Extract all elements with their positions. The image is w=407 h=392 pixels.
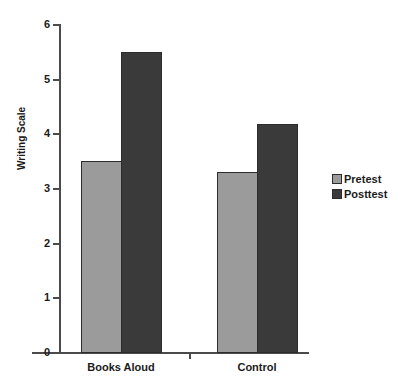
legend-swatch-icon-posttest <box>332 189 342 199</box>
legend-label-posttest: Posttest <box>344 189 387 200</box>
y-tick-label-1: 1 <box>36 292 50 303</box>
y-tick-3 <box>53 188 60 190</box>
y-tick-5 <box>53 79 60 81</box>
x-tick-separator <box>189 353 191 359</box>
y-tick-1 <box>53 297 60 299</box>
y-tick-2 <box>53 243 60 245</box>
y-tick-6 <box>53 24 60 26</box>
y-tick-label-4: 4 <box>36 128 50 139</box>
bar-control-posttest[interactable] <box>257 124 298 353</box>
y-tick-label-0: 0 <box>36 347 50 358</box>
legend: Pretest Posttest <box>332 172 387 202</box>
y-tick-label-3: 3 <box>36 183 50 194</box>
legend-swatch-icon-pretest <box>332 174 342 184</box>
x-category-label-control: Control <box>197 361 317 373</box>
y-tick-4 <box>53 133 60 135</box>
y-tick-0 <box>53 352 60 354</box>
y-tick-label-2: 2 <box>36 238 50 249</box>
y-tick-label-5: 5 <box>36 74 50 85</box>
bar-control-pretest[interactable] <box>217 172 258 353</box>
y-tick-label-6: 6 <box>36 19 50 30</box>
bar-books-aloud-pretest[interactable] <box>81 161 122 353</box>
legend-item-posttest[interactable]: Posttest <box>332 187 387 201</box>
legend-item-pretest[interactable]: Pretest <box>332 172 387 186</box>
bar-books-aloud-posttest[interactable] <box>121 52 162 353</box>
x-category-label-books-aloud: Books Aloud <box>61 361 181 373</box>
bar-chart: Writing Scale 6 5 4 3 2 1 0 Books Aloud … <box>0 0 407 392</box>
legend-label-pretest: Pretest <box>344 174 381 185</box>
